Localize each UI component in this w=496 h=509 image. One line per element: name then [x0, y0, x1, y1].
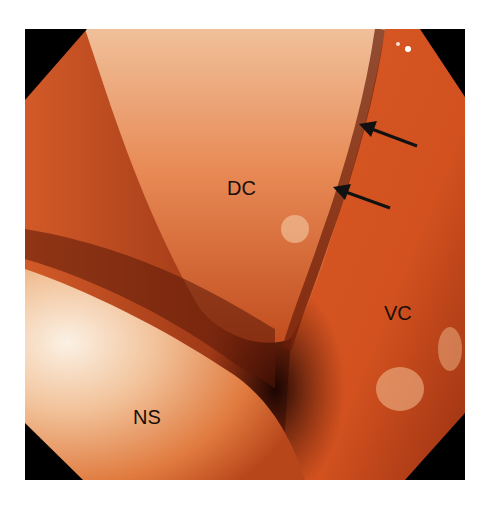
label-dc: DC — [227, 178, 256, 198]
tissue-illustration — [25, 29, 465, 480]
endoscopic-image — [25, 29, 465, 480]
label-ns: NS — [133, 407, 161, 427]
label-vc: VC — [384, 303, 412, 323]
